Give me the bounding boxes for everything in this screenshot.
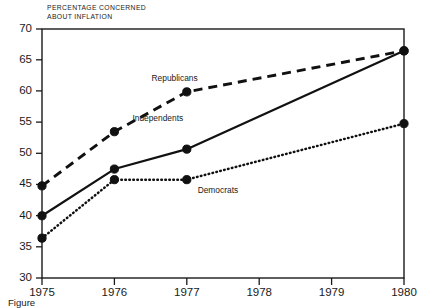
y-tick-label-50: 50	[19, 146, 32, 158]
x-tick-label-1977: 1977	[174, 286, 200, 298]
y-tick-label-65: 65	[19, 53, 32, 65]
x-tick-label-1976: 1976	[102, 286, 128, 298]
figure-caption: Figure	[8, 297, 35, 308]
series-democrats	[38, 120, 408, 243]
series-markers-republicans	[38, 47, 408, 190]
x-axis-ticks	[42, 278, 404, 285]
y-tick-label-45: 45	[19, 177, 32, 189]
data-point	[183, 176, 191, 184]
y-tick-label-55: 55	[19, 115, 32, 127]
series-annotation-independents: Independents	[132, 113, 183, 123]
series-annotation-republicans: Republicans	[152, 73, 198, 83]
data-point	[110, 176, 118, 184]
plot-frame	[42, 29, 404, 278]
data-point	[38, 212, 46, 220]
data-point	[400, 47, 408, 55]
data-point	[400, 120, 408, 128]
data-point	[183, 145, 191, 153]
series-line-republicans	[42, 51, 404, 186]
data-point	[38, 234, 46, 242]
chart-title-line-2: ABOUT INFLATION	[47, 13, 112, 20]
series-republicans	[38, 47, 408, 190]
y-tick-label-60: 60	[19, 84, 32, 96]
line-chart: PERCENTAGE CONCERNED ABOUT INFLATION 30 …	[0, 0, 426, 308]
data-point	[110, 165, 118, 173]
x-tick-label-1980: 1980	[391, 286, 417, 298]
x-tick-label-1978: 1978	[246, 286, 272, 298]
y-tick-label-70: 70	[19, 22, 32, 34]
figure-container: PERCENTAGE CONCERNED ABOUT INFLATION 30 …	[0, 0, 426, 308]
y-tick-label-35: 35	[19, 240, 32, 252]
series-annotation-democrats: Democrats	[198, 185, 239, 195]
data-point	[38, 182, 46, 190]
y-tick-label-30: 30	[19, 271, 32, 283]
data-point	[183, 88, 191, 96]
chart-title-line-1: PERCENTAGE CONCERNED	[47, 4, 146, 11]
x-tick-label-1979: 1979	[319, 286, 345, 298]
y-tick-label-40: 40	[19, 209, 32, 221]
data-point	[110, 128, 118, 136]
